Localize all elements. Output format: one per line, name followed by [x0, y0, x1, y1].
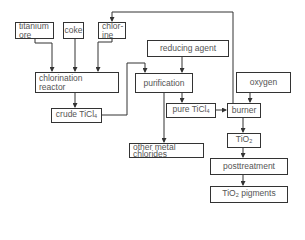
node-coke: coke — [63, 22, 84, 39]
node-label: chlorination — [39, 74, 82, 83]
node-label: pigments — [239, 188, 276, 198]
node-other-metal-chlorides: other metalchlorides — [129, 143, 204, 158]
node-burner: burner — [227, 103, 261, 118]
node-reducing-agent: reducing agent — [147, 40, 229, 57]
node-crude-ticl4: crude TiCl4 — [51, 108, 102, 123]
subscript: 4 — [206, 108, 209, 114]
node-label: pure TiCl — [172, 104, 206, 114]
node-label: posttreatment — [223, 162, 275, 171]
node-label: oxygen — [250, 78, 277, 87]
node-label: ine — [102, 31, 123, 40]
subscript: 2 — [249, 138, 252, 144]
node-label: TiO — [236, 134, 249, 144]
node-pure-ticl4: pure TiCl4 — [166, 103, 216, 118]
node-chlorination-reactor: chlorinationreactor — [35, 72, 119, 93]
node-tio2: TiO2 — [227, 133, 261, 148]
node-label: coke — [65, 26, 83, 35]
node-label: burner — [232, 106, 257, 115]
subscript: 4 — [94, 113, 97, 119]
node-label: ore — [19, 31, 49, 40]
node-label: reactor — [39, 83, 82, 92]
node-purification: purification — [135, 73, 193, 93]
node-label: reducing agent — [160, 44, 216, 53]
node-oxygen: oxygen — [236, 72, 291, 93]
node-label: crude TiCl — [56, 109, 94, 119]
node-label: TiO — [222, 188, 235, 198]
node-label: purification — [143, 79, 184, 88]
node-titanium-ore: titaniumore — [15, 22, 54, 39]
node-label: chlorides — [133, 151, 176, 158]
node-posttreatment: posttreatment — [210, 158, 288, 175]
node-chlorine: chlor-ine — [98, 22, 126, 39]
node-tio2-pigments: TiO2 pigments — [210, 186, 288, 203]
